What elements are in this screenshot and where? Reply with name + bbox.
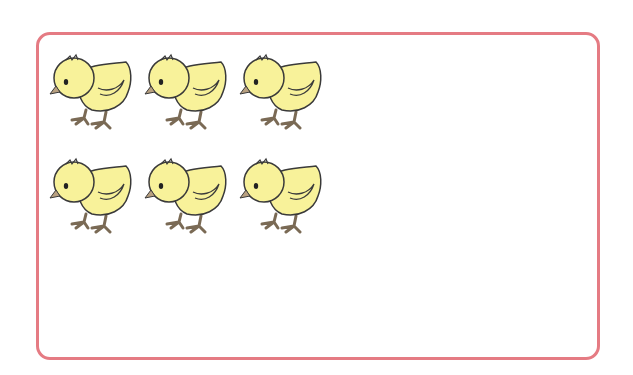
chick-4 — [48, 152, 138, 234]
chick-5 — [143, 152, 233, 234]
chick-3 — [238, 48, 328, 130]
chick-2 — [143, 48, 233, 130]
chick-6 — [238, 152, 328, 234]
chick-1 — [48, 48, 138, 130]
